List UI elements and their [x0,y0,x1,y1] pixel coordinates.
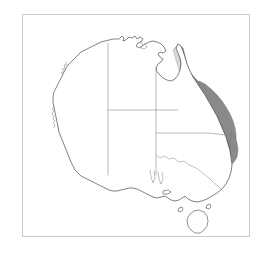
tasmania-island [187,210,208,233]
king-island [178,207,183,212]
figure-root [0,0,271,259]
map-frame [22,14,250,237]
flinders-island [206,204,211,209]
australia-map [23,15,251,238]
mainland-coastline [53,36,232,202]
